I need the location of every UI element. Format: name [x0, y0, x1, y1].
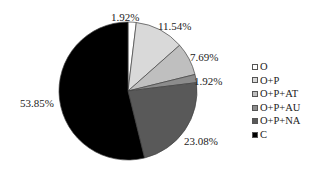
legend-item-o-p-na: O+P+NA [252, 114, 300, 128]
slice-label-o-p-at: 7.69% [190, 51, 218, 63]
legend-label: O+P+AU [260, 101, 300, 115]
legend-item-o-p-at: O+P+AT [252, 87, 300, 101]
legend-swatch-icon [252, 77, 258, 83]
legend-item-o-p: O+P [252, 74, 300, 88]
legend-swatch-icon [252, 105, 258, 111]
legend-item-o: O [252, 60, 300, 74]
slice-label-c: 53.85% [20, 97, 54, 109]
pie-slices [59, 22, 197, 160]
slice-label-o-p: 11.54% [158, 20, 192, 32]
slice-label-o-p-na: 23.08% [184, 135, 218, 147]
legend-item-o-p-au: O+P+AU [252, 101, 300, 115]
legend-label: O+P [260, 74, 279, 88]
legend-label: C [260, 128, 267, 142]
legend-swatch-icon [252, 132, 258, 138]
slice-label-o: 1.92% [111, 11, 139, 23]
legend-label: O+P+NA [260, 114, 300, 128]
legend-item-c: C [252, 128, 300, 142]
chart-legend: O O+P O+P+AT O+P+AU O+P+NA C [252, 60, 300, 142]
legend-swatch-icon [252, 64, 258, 70]
legend-swatch-icon [252, 118, 258, 124]
legend-label: O+P+AT [260, 87, 298, 101]
slice-label-o-p-au: 1.92% [194, 75, 222, 87]
legend-label: O [260, 60, 268, 74]
legend-swatch-icon [252, 91, 258, 97]
